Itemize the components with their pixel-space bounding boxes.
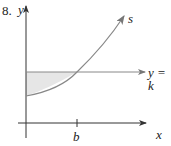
diagram	[0, 0, 171, 146]
curve-label: s	[128, 12, 133, 25]
tick-label: b	[73, 130, 80, 143]
line-label: y = k	[148, 66, 171, 92]
problem-number: 8.	[2, 4, 12, 17]
x-axis-label: x	[156, 128, 162, 141]
shaded-region	[26, 72, 77, 96]
y-axis-label: y	[18, 3, 24, 16]
